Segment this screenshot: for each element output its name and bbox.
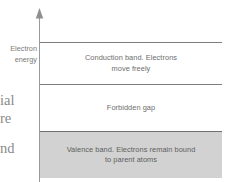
- valence-band-line-1: Valence band. Electrons remain bound: [67, 145, 196, 154]
- valence-band-line-2: to parent atoms: [105, 155, 157, 164]
- axis-label-line-1: Electron: [0, 43, 37, 54]
- conduction-band-line-2: move freely: [112, 64, 151, 73]
- electron-energy-axis-label: Electron energy: [0, 43, 37, 65]
- valence-band-region: Valence band. Electrons remain bound to …: [40, 131, 222, 178]
- margin-text-fragment-2: re: [0, 110, 11, 127]
- margin-text-fragment-1: ial: [0, 92, 15, 109]
- margin-text-fragment-3: nd: [0, 140, 15, 157]
- axis-arrowhead-icon: [35, 8, 44, 19]
- conduction-band-line-1: Conduction band. Electrons: [85, 53, 177, 62]
- forbidden-gap-region: Forbidden gap: [40, 85, 222, 131]
- forbidden-gap-label: Forbidden gap: [101, 103, 161, 113]
- conduction-band-label: Conduction band. Electrons move freely: [79, 53, 183, 74]
- energy-band-diagram: Electron energy Conduction band. Electro…: [0, 0, 231, 182]
- axis-label-line-2: energy: [0, 54, 37, 65]
- forbidden-gap-line-1: Forbidden gap: [107, 103, 155, 112]
- valence-band-label: Valence band. Electrons remain bound to …: [61, 145, 202, 166]
- conduction-band-region: Conduction band. Electrons move freely: [40, 43, 222, 84]
